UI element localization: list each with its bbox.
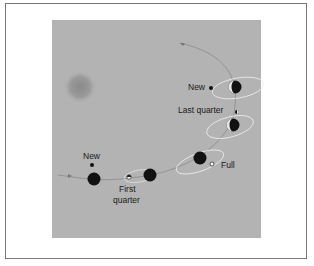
label-new-bottom: New	[83, 151, 101, 161]
arrow-head-icon	[68, 174, 72, 178]
label-full: Full	[221, 160, 235, 170]
moon-last-quarter	[235, 110, 239, 114]
earth-first-quarter	[144, 169, 157, 182]
earth-last-quarter	[227, 119, 240, 132]
label-first-quarter-line2: quarter	[113, 195, 140, 205]
sun-icon	[63, 70, 97, 104]
label-last-quarter: Last quarter	[178, 105, 224, 115]
moon-new-bottom	[90, 163, 94, 167]
label-first-quarter-line1: First	[119, 184, 136, 194]
earth-new-bottom	[88, 173, 101, 186]
earth-moon-orbit-diagram: New Last quarter Full New First quarter	[0, 0, 314, 266]
earth-new-top	[229, 81, 242, 94]
moon-first-quarter	[127, 175, 131, 179]
arrow-head-icon	[180, 43, 185, 46]
moon-full	[210, 162, 214, 166]
moon-new-top	[209, 86, 213, 90]
earth-full	[194, 152, 207, 165]
label-new-top: New	[188, 82, 206, 92]
